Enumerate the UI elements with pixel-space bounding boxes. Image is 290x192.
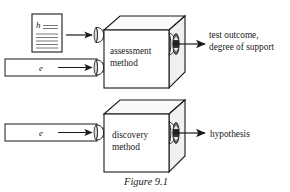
discovery-method-label-line1: discovery [112, 130, 148, 140]
input-funnel-icon-lower [94, 60, 104, 75]
assessment-output-label-line1: test outcome, [209, 30, 259, 40]
evidence-variable-label: e [39, 63, 43, 73]
output-funnel-icon-discovery [169, 122, 179, 144]
figure-canvas: h e assessment method [0, 0, 290, 192]
discovery-output-label: hypothesis [210, 129, 250, 139]
evidence-bar-discovery [5, 124, 97, 141]
assessment-method-label-line1: assessment [110, 46, 152, 56]
assessment-method-label-line2: method [110, 58, 138, 68]
discovery-method-label-line2: method [112, 142, 140, 152]
evidence-bar-assessment [5, 59, 97, 76]
input-funnel-icon-upper [94, 28, 104, 43]
assessment-output-label-line2: degree of support [209, 42, 274, 52]
hypothesis-variable-label: h [36, 20, 41, 30]
input-funnel-icon-discovery [94, 125, 104, 140]
evidence-variable-label-discovery: e [39, 128, 43, 138]
output-funnel-icon-assessment [169, 33, 179, 55]
figure-9-1: h e assessment method [0, 0, 290, 192]
figure-caption: Figure 9.1 [123, 176, 168, 187]
